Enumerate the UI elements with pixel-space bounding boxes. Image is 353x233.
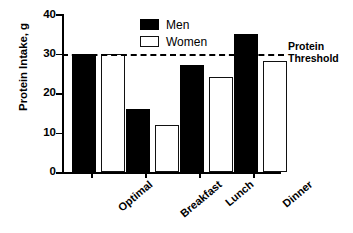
x-axis-label-lunch: Lunch: [223, 178, 256, 208]
y-tick-label-20: 20: [30, 87, 56, 97]
y-axis-title: Protein Intake, g: [17, 0, 35, 137]
x-axis-label-dinner: Dinner: [280, 178, 314, 210]
protein-threshold-line: [62, 54, 284, 56]
y-tick-20: [56, 93, 62, 95]
x-axis-line: [62, 172, 281, 174]
x-tick-optimal: [91, 172, 93, 178]
x-axis-label-optimal: Optimal: [116, 178, 155, 214]
bar-women-optimal: [101, 54, 125, 173]
legend-swatch-women-icon: [140, 36, 159, 47]
protein-threshold-label: Protein Threshold: [288, 41, 339, 64]
bar-men-optimal: [72, 54, 96, 173]
bar-women-dinner: [263, 61, 287, 172]
y-tick-label-30: 30: [30, 48, 56, 58]
bar-men-breakfast: [126, 109, 150, 172]
y-tick-label-0: 0: [30, 166, 56, 176]
bar-men-lunch: [180, 65, 204, 172]
protein-intake-bar-chart: Protein Intake, g 40 30 20 10 0: [0, 0, 353, 233]
bar-women-breakfast: [155, 125, 179, 172]
y-tick-0: [56, 172, 62, 174]
protein-threshold-label-line2: Threshold: [288, 53, 339, 65]
legend-swatch-men-icon: [140, 19, 159, 30]
y-axis-line: [62, 14, 64, 172]
chart-legend: Men Women: [140, 16, 207, 50]
x-tick-lunch: [199, 172, 201, 178]
legend-item-women: Women: [140, 33, 207, 50]
legend-label-women: Women: [166, 35, 207, 49]
y-tick-10: [56, 133, 62, 135]
x-axis-label-breakfast: Breakfast: [178, 178, 224, 219]
y-tick-40: [56, 14, 62, 16]
x-tick-dinner: [253, 172, 255, 178]
legend-label-men: Men: [166, 18, 189, 32]
bar-women-lunch: [209, 77, 233, 172]
y-tick-label-40: 40: [30, 9, 56, 19]
legend-item-men: Men: [140, 16, 207, 33]
protein-threshold-label-line1: Protein: [288, 41, 339, 53]
y-tick-label-10: 10: [30, 127, 56, 137]
